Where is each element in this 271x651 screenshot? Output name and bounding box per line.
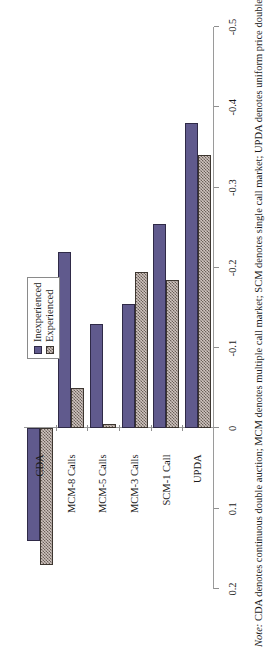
legend-label: Inexperienced xyxy=(32,283,43,342)
category-label: MCM-3 Calls xyxy=(129,454,140,513)
legend-item: Experienced xyxy=(44,283,55,354)
note-text: CDA denotes continuous double auction; M… xyxy=(253,0,264,624)
category-boundary-tick xyxy=(151,425,152,431)
category-label: MCM-8 Calls xyxy=(66,454,77,513)
category-label: MCM-5 Calls xyxy=(97,454,108,513)
figure-canvas: Actual Volume-CE Volume 0.20.10-0.1-0.2-… xyxy=(0,0,271,651)
legend-swatch-experienced xyxy=(46,346,54,354)
category-boundary-tick xyxy=(87,425,88,431)
note-lead: Note: xyxy=(253,624,264,647)
bar-inexperienced-cda xyxy=(27,428,40,540)
legend-swatch-inexperienced xyxy=(34,346,42,354)
bar-experienced-mcm-8-calls xyxy=(71,388,84,428)
bar-inexperienced-scm-1-call xyxy=(153,224,166,429)
bar-inexperienced-mcm-3-calls xyxy=(122,304,135,428)
bar-experienced-cda xyxy=(40,428,53,564)
bar-inexperienced-mcm-8-calls xyxy=(58,252,71,429)
bar-experienced-mcm-5-calls xyxy=(103,424,116,428)
category-boundary-tick xyxy=(56,425,57,431)
figure-note: Note: CDA denotes continuous double auct… xyxy=(253,2,265,647)
bar-inexperienced-upda xyxy=(185,123,198,428)
legend-item: Inexperienced xyxy=(32,283,43,354)
category-label: CDA xyxy=(34,454,45,476)
category-label: SCM-1 Call xyxy=(161,454,172,505)
value-axis-title-container: Actual Volume-CE Volume xyxy=(24,621,214,637)
bar-experienced-mcm-3-calls xyxy=(135,272,148,429)
chart-legend: InexperiencedExperienced xyxy=(27,277,60,359)
value-axis-title: Actual Volume-CE Volume xyxy=(0,625,24,637)
legend-label: Experienced xyxy=(44,290,55,342)
category-boundary-tick xyxy=(182,425,183,431)
bar-experienced-upda xyxy=(198,155,211,428)
bar-inexperienced-mcm-5-calls xyxy=(90,324,103,428)
bar-experienced-scm-1-call xyxy=(166,280,179,429)
category-label: UPDA xyxy=(192,454,203,483)
category-boundary-tick xyxy=(119,425,120,431)
